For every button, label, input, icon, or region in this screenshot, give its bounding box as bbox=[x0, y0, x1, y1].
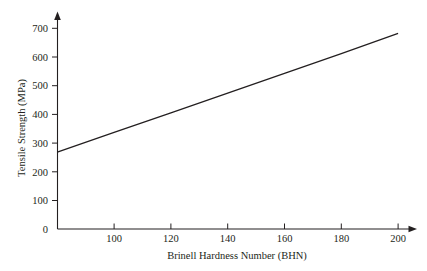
y-tick-label-500: 500 bbox=[32, 80, 48, 91]
y-tick-label-200: 200 bbox=[32, 167, 48, 178]
x-axis-title: Brinell Hardness Number (BHN) bbox=[167, 250, 307, 262]
y-tick-label-400: 400 bbox=[32, 109, 48, 120]
x-tick-label-180: 180 bbox=[333, 233, 349, 244]
y-axis-arrow-icon bbox=[54, 12, 61, 21]
y-tick-label-600: 600 bbox=[32, 52, 48, 63]
x-tick-label-160: 160 bbox=[277, 233, 293, 244]
x-axis-arrow-icon bbox=[409, 226, 418, 233]
line-chart: 700 600 500 400 300 200 100 0 100 120 14… bbox=[0, 0, 427, 271]
y-tick-label-0: 0 bbox=[43, 224, 48, 235]
chart-container: 700 600 500 400 300 200 100 0 100 120 14… bbox=[0, 0, 427, 271]
y-tick-label-300: 300 bbox=[32, 138, 48, 149]
x-tick-label-120: 120 bbox=[163, 233, 179, 244]
y-axis-title: Tensile Strength (MPa) bbox=[16, 79, 28, 177]
y-tick-label-700: 700 bbox=[32, 23, 48, 34]
x-tick-label-200: 200 bbox=[390, 233, 406, 244]
data-series-line bbox=[57, 33, 398, 152]
x-tick-label-140: 140 bbox=[220, 233, 236, 244]
x-tick-label-100: 100 bbox=[106, 233, 122, 244]
y-tick-label-100: 100 bbox=[32, 195, 48, 206]
